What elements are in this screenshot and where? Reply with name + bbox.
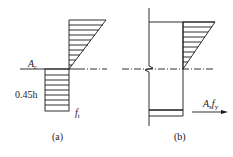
label-tensile-stress: ft xyxy=(75,107,80,120)
compression-triangle-a xyxy=(69,20,106,69)
compression-triangle-b xyxy=(183,22,215,69)
caption-a: (a) xyxy=(52,131,63,143)
label-steel-force: Asfy xyxy=(202,98,219,111)
label-depth: 0.45h xyxy=(15,89,38,100)
tension-block-a xyxy=(45,69,69,111)
caption-b: (b) xyxy=(174,131,186,143)
stress-diagram: Ac 0.45h ft (a) Asfy (b) xyxy=(0,0,233,157)
